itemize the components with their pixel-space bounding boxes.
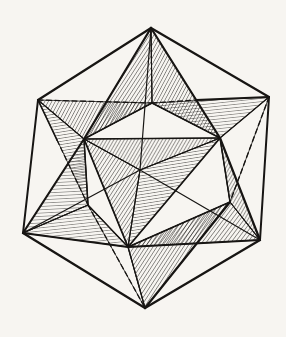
book-page (0, 0, 286, 337)
stella-octangula-in-cube (0, 0, 286, 337)
octa-edge-onw-one (84, 138, 220, 139)
